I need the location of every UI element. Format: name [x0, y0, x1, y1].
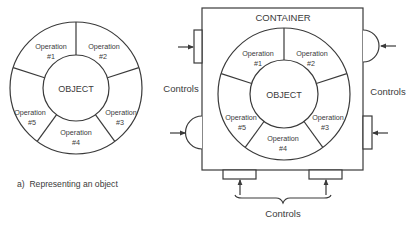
controls-left-label: Controls [163, 83, 199, 94]
controls-brace [235, 195, 331, 203]
operation-3-label: Operation [105, 108, 137, 117]
left-rect-control [194, 30, 202, 63]
operation-5-label: Operation [14, 108, 46, 117]
operation-1-number: #1 [254, 59, 262, 68]
right-semicircle-control [363, 30, 379, 62]
operation-4-label: Operation [60, 128, 92, 137]
operation-5-label: Operation [225, 113, 257, 122]
left-controls: Controls [163, 30, 202, 149]
operation-3-number: #3 [321, 123, 329, 132]
operation-5-number: #5 [238, 123, 246, 132]
bottom-right-rect-control [309, 170, 342, 179]
operation-1-label: Operation [242, 49, 274, 58]
panel-a-object: OBJECT Operation #1 Operation #2 Operati… [10, 22, 142, 189]
operation-1-number: #1 [47, 52, 55, 61]
object-label: OBJECT [266, 90, 302, 100]
operation-2-label: Operation [296, 49, 328, 58]
operation-3-segment: Operation #3 [312, 113, 344, 132]
operation-5-number: #5 [28, 118, 36, 127]
operation-3-segment: Operation #3 [105, 108, 137, 127]
object-container-diagram: OBJECT Operation #1 Operation #2 Operati… [0, 0, 414, 232]
right-controls: Controls [363, 30, 406, 149]
operation-1-segment: Operation #1 [242, 49, 274, 68]
operation-2-number: #2 [307, 59, 315, 68]
panel-a-caption: a) Representing an object [17, 179, 118, 189]
operation-4-segment: Operation #4 [267, 134, 299, 153]
operation-4-number: #4 [279, 144, 287, 153]
panel-b-container: CONTAINER OBJECT Operation #1 Operation … [163, 8, 406, 219]
operation-4-number: #4 [72, 138, 80, 147]
container-label: CONTAINER [255, 12, 310, 23]
controls-right-label: Controls [370, 86, 406, 97]
object-label: OBJECT [58, 84, 94, 94]
operation-5-segment: Operation #5 [14, 108, 46, 127]
operation-5-segment: Operation #5 [225, 113, 257, 132]
controls-bottom-label: Controls [265, 208, 301, 219]
operation-3-label: Operation [312, 113, 344, 122]
operation-2-label: Operation [88, 42, 120, 51]
left-semicircle-control [186, 116, 202, 149]
operation-2-segment: Operation #2 [88, 42, 120, 61]
bottom-left-rect-control [223, 170, 256, 179]
operation-3-number: #3 [116, 118, 124, 127]
operation-2-number: #2 [99, 52, 107, 61]
operation-4-segment: Operation #4 [60, 128, 92, 147]
right-rect-control [363, 116, 372, 149]
operation-1-label: Operation [35, 42, 67, 51]
bottom-controls: Controls [223, 170, 342, 219]
operation-4-label: Operation [267, 134, 299, 143]
